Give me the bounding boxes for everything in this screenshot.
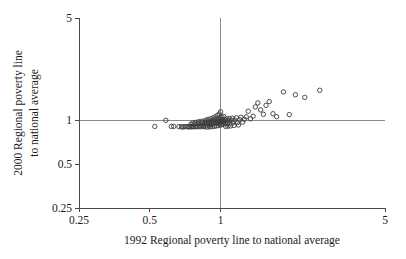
y-axis-title-line1: 2000 Regional poverty line bbox=[12, 50, 25, 176]
x-axis-title: 1992 Regional poverty line to national a… bbox=[124, 234, 340, 247]
y-tick-label-1: 0.5 bbox=[58, 158, 73, 170]
x-tick-label-2: 1 bbox=[218, 214, 224, 226]
chart-background bbox=[0, 0, 406, 259]
x-tick-label-0: 0.25 bbox=[69, 214, 89, 226]
y-tick-label-2: 1 bbox=[66, 114, 72, 126]
y-tick-label-3: 5 bbox=[66, 12, 72, 24]
x-tick-label-3: 5 bbox=[382, 214, 388, 226]
y-axis-title-line2: to national average bbox=[28, 69, 41, 157]
chart-canvas: 0.250.515 0.250.515 1992 Regional povert… bbox=[0, 0, 406, 259]
scatter-plot-figure: 0.250.515 0.250.515 1992 Regional povert… bbox=[0, 0, 406, 259]
x-tick-label-1: 0.5 bbox=[143, 214, 158, 226]
y-tick-label-0: 0.25 bbox=[52, 202, 72, 214]
